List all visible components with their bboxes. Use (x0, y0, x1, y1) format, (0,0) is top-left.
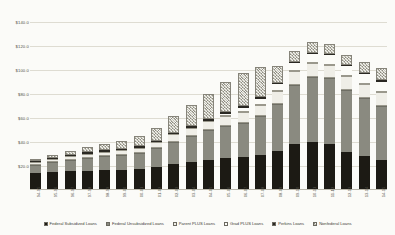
legend-label: Federal Subsidized Loans (50, 221, 97, 226)
bar-stack (65, 10, 76, 190)
bar-segment (134, 136, 145, 146)
legend-label: Perkins Loans (278, 221, 304, 226)
x-axis-tick: 00-01 (134, 191, 145, 217)
bar-segment (359, 74, 370, 84)
y-axis-tick-label: $40.0 (1, 140, 29, 145)
legend-item[interactable]: Federal Subsidized Loans (44, 221, 97, 226)
bar-segment (341, 152, 352, 190)
bar-stack (307, 10, 318, 190)
bar-segment (186, 128, 197, 136)
bar-segment (116, 141, 127, 149)
bar-segment (272, 66, 283, 83)
x-axis-tick: 07-08 (255, 191, 266, 217)
bar-stack (116, 10, 127, 190)
bar-segment (289, 144, 300, 190)
legend-swatch (106, 222, 110, 226)
bar-segment (289, 51, 300, 63)
x-axis-tick-label: 13-14 (364, 187, 369, 198)
y-axis-tick-label: $120.0 (1, 44, 29, 49)
x-axis-tick-label: 09-10 (295, 187, 300, 198)
bar-segment (186, 136, 197, 162)
x-axis-tick: 94-95 (30, 191, 41, 217)
bar-segment (272, 84, 283, 91)
y-axis-tick-label: $20.0 (1, 164, 29, 169)
bar-stack (168, 10, 179, 190)
x-axis-tick: 09-10 (289, 191, 300, 217)
x-axis-tick: 04-05 (203, 191, 214, 217)
x-axis-tick: 02-03 (168, 191, 179, 217)
x-axis-tick: 97-98 (82, 191, 93, 217)
legend-item[interactable]: Perkins Loans (272, 221, 304, 226)
y-axis-tick-label: $100.0 (1, 68, 29, 73)
legend-item[interactable]: Parent PLUS Loans (173, 221, 215, 226)
x-axis-tick: 11-12 (324, 191, 335, 217)
x-axis-tick: 12-13 (341, 191, 352, 217)
y-axis-tick-label: $60.0 (1, 116, 29, 121)
x-axis-tick: 03-04 (186, 191, 197, 217)
legend-item[interactable]: Grad PLUS Loans (224, 221, 263, 226)
x-axis-tick: 05-06 (220, 191, 231, 217)
bar-stack (341, 10, 352, 190)
x-axis-tick-label: 94-95 (36, 187, 41, 198)
legend-item[interactable]: Nonfederal Loans (313, 221, 351, 226)
x-axis-tick-label: 10-11 (312, 187, 317, 197)
x-axis-tick: 98-99 (99, 191, 110, 217)
x-axis-tick-label: 11-12 (330, 187, 335, 197)
chart-legend: Federal Subsidized LoansFederal Unsubsid… (0, 221, 395, 226)
bar-segment (307, 42, 318, 53)
bar-segment (376, 68, 387, 80)
bar-stack (30, 10, 41, 190)
bar-segment (307, 54, 318, 63)
bar-segment (116, 155, 127, 170)
legend-item[interactable]: Federal Unsubsidized Loans (106, 221, 164, 226)
bar-segment (168, 142, 179, 165)
bar-segment (168, 116, 179, 133)
legend-label: Parent PLUS Loans (179, 221, 215, 226)
bar-segment (359, 156, 370, 190)
x-axis-tick: 01-02 (151, 191, 162, 217)
bar-segment (47, 162, 58, 172)
bar-segment (324, 65, 335, 79)
stacked-bar-chart: $140.0$120.0$100.0$80.0$60.0$40.0$20.0 9… (0, 0, 395, 235)
x-axis-tick: 10-11 (307, 191, 318, 217)
bar-stack (151, 10, 162, 190)
bar-segment (168, 134, 179, 141)
bar-segment (289, 85, 300, 145)
bar-segment (65, 160, 76, 172)
legend-label: Nonfederal Loans (319, 221, 351, 226)
bar-segment (324, 78, 335, 144)
bar-stack (134, 10, 145, 190)
x-axis-tick-label: 98-99 (105, 187, 110, 198)
bar-segment (272, 104, 283, 152)
bar-segment (289, 63, 300, 71)
legend-label: Federal Unsubsidized Loans (112, 221, 164, 226)
bar-segment (341, 76, 352, 90)
bar-segment (341, 55, 352, 65)
x-axis-tick-label: 00-01 (139, 187, 144, 198)
y-axis: $140.0$120.0$100.0$80.0$60.0$40.0$20.0 (0, 10, 29, 190)
legend-label: Grad PLUS Loans (230, 221, 263, 226)
x-axis-tick-label: 04-05 (208, 187, 213, 198)
x-axis-tick-label: 02-03 (174, 187, 179, 198)
x-axis-tick-label: 06-07 (243, 187, 248, 198)
bar-segment (255, 116, 266, 155)
bar-segment (307, 63, 318, 77)
bar-segment (255, 155, 266, 190)
x-axis-tick-label: 96-97 (70, 187, 75, 198)
bar-segment (324, 44, 335, 54)
bar-segment (255, 67, 266, 97)
bar-segment (203, 121, 214, 130)
bar-segment (99, 156, 110, 170)
bar-stack (82, 10, 93, 190)
plot-area (30, 10, 387, 190)
bar-series-container (30, 10, 387, 190)
bar-segment (376, 92, 387, 106)
bar-stack (203, 10, 214, 190)
legend-swatch (44, 222, 48, 226)
bar-segment (255, 105, 266, 117)
x-axis-tick: 14-15 (376, 191, 387, 217)
bar-segment (341, 90, 352, 152)
x-axis-tick-label: 01-02 (157, 187, 162, 198)
legend-swatch (224, 222, 228, 226)
bar-segment (238, 73, 249, 106)
